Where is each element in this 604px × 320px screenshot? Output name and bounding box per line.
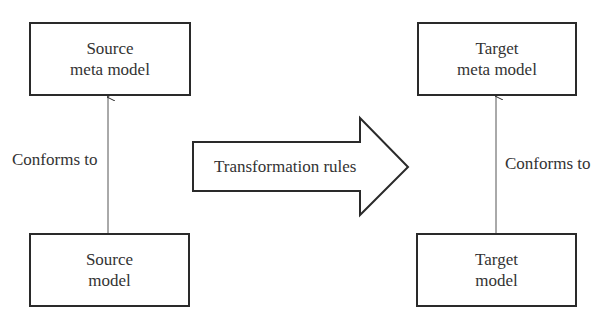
transformation-rules-label: Transformation rules (214, 157, 356, 177)
source-meta-model-line2: meta model (70, 59, 150, 80)
target-meta-model-line1: Target (476, 38, 519, 59)
source-model-line1: Source (86, 249, 133, 270)
target-model-box: Target model (416, 233, 577, 307)
source-model-line2: model (88, 270, 131, 291)
target-model-line2: model (475, 270, 518, 291)
left-conforms-label: Conforms to (12, 150, 97, 170)
right-conforms-label: Conforms to (505, 154, 590, 174)
source-meta-model-line1: Source (86, 38, 133, 59)
source-meta-model-box: Source meta model (29, 22, 191, 96)
target-meta-model-box: Target meta model (417, 22, 577, 96)
target-meta-model-line2: meta model (457, 59, 537, 80)
source-model-box: Source model (29, 233, 190, 307)
target-model-line1: Target (475, 249, 518, 270)
